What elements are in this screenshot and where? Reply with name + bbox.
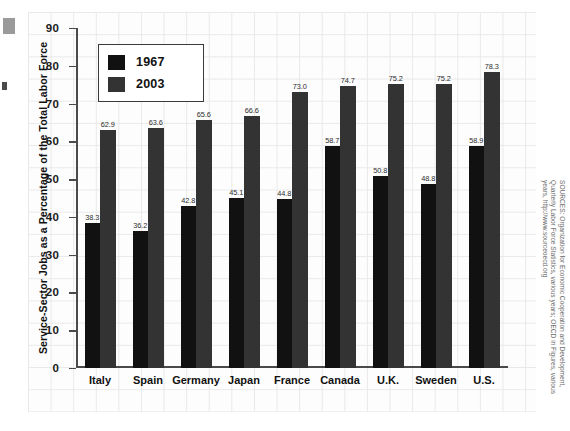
bar-value-label: 63.6	[149, 118, 163, 127]
bar-japan-2003[interactable]: 66.6	[244, 116, 260, 368]
bar-sweden-1967[interactable]: 48.8	[421, 184, 437, 368]
bar-value-label: 62.9	[101, 120, 115, 129]
x-axis-label-japan: Japan	[228, 374, 260, 386]
y-axis-tick-label: 40	[46, 211, 59, 223]
y-axis-tick: 90	[69, 28, 76, 29]
bar-group: 45.166.6	[229, 28, 260, 368]
y-axis-tick-label: 90	[46, 22, 59, 34]
legend-swatch-icon-2003	[108, 77, 125, 92]
chart-legend: 1967 2003	[98, 44, 204, 102]
bar-value-label: 66.6	[245, 106, 259, 115]
bar-canada-1967[interactable]: 58.7	[325, 146, 341, 368]
bar-us-1967[interactable]: 58.9	[469, 146, 485, 369]
source-note: SOURCES: Organization for Economic Coope…	[540, 180, 566, 410]
bar-value-label: 45.1	[229, 188, 243, 197]
legend-swatch-icon-1967	[108, 55, 125, 70]
y-axis-tick-label: 70	[46, 98, 59, 110]
legend-label-1967: 1967	[136, 55, 165, 69]
bar-uk-2003[interactable]: 75.2	[388, 84, 404, 368]
y-axis-tick: 80	[69, 66, 76, 67]
bar-group: 58.774.7	[325, 28, 356, 368]
bar-germany-2003[interactable]: 65.6	[196, 120, 212, 368]
legend-item-1967: 1967	[108, 51, 203, 73]
bar-sweden-2003[interactable]: 75.2	[436, 84, 452, 368]
bar-value-label: 36.2	[133, 221, 147, 230]
bar-value-label: 65.6	[197, 110, 211, 119]
bar-value-label: 50.8	[373, 166, 387, 175]
bar-spain-2003[interactable]: 63.6	[148, 128, 164, 368]
legend-item-2003: 2003	[108, 73, 203, 95]
bar-value-label: 75.2	[389, 74, 403, 83]
bar-group: 50.875.2	[373, 28, 404, 368]
bar-canada-2003[interactable]: 74.7	[340, 86, 356, 368]
page-edge-mark-top	[3, 18, 15, 34]
bar-group: 48.875.2	[421, 28, 452, 368]
bar-group: 44.873.0	[277, 28, 308, 368]
bar-value-label: 48.8	[421, 174, 435, 183]
x-axis-label-canada: Canada	[320, 374, 360, 386]
bar-group: 58.978.3	[469, 28, 500, 368]
y-axis-tick-label: 20	[46, 286, 59, 298]
bar-us-2003[interactable]: 78.3	[484, 72, 500, 368]
source-note-text: SOURCES: Organization for Economic Coope…	[540, 180, 566, 410]
x-axis-label-sweden: Sweden	[415, 374, 457, 386]
bar-france-2003[interactable]: 73.0	[292, 92, 308, 368]
x-axis-label-italy: Italy	[89, 374, 111, 386]
chart-figure: Service-Sector Jobs as a Percentage of t…	[0, 0, 570, 431]
y-axis-tick-label: 60	[46, 135, 59, 147]
y-axis-title-text: Service-Sector Jobs as a Percentage of t…	[37, 42, 49, 354]
y-axis-tick: 70	[69, 104, 76, 105]
bar-value-label: 38.3	[85, 213, 99, 222]
bar-value-label: 42.8	[181, 196, 195, 205]
y-axis-title: Service-Sector Jobs as a Percentage of t…	[34, 28, 52, 368]
bar-value-label: 73.0	[293, 82, 307, 91]
bar-value-label: 58.7	[325, 136, 339, 145]
page-edge-mark-middle	[2, 82, 7, 90]
x-axis-label-us: U.S.	[473, 374, 494, 386]
x-axis-label-france: France	[274, 374, 310, 386]
y-axis-tick: 10	[69, 330, 76, 331]
bar-value-label: 78.3	[485, 62, 499, 71]
bar-value-label: 75.2	[437, 74, 451, 83]
bar-spain-1967[interactable]: 36.2	[133, 231, 149, 368]
bar-germany-1967[interactable]: 42.8	[181, 206, 197, 368]
y-axis-tick: 60	[69, 141, 76, 142]
y-axis-tick-label: 10	[46, 324, 59, 336]
x-axis-label-germany: Germany	[172, 374, 220, 386]
bar-italy-1967[interactable]: 38.3	[85, 223, 101, 368]
y-axis-tick-label: 80	[46, 60, 59, 72]
y-axis-tick: 30	[69, 255, 76, 256]
bar-value-label: 44.8	[277, 189, 291, 198]
x-axis-label-uk: U.K.	[377, 374, 399, 386]
x-axis-label-spain: Spain	[133, 374, 163, 386]
y-axis-tick: 20	[69, 292, 76, 293]
y-axis-tick-label: 30	[46, 249, 59, 261]
bar-italy-2003[interactable]: 62.9	[100, 130, 116, 368]
bar-value-label: 58.9	[469, 136, 483, 145]
legend-label-2003: 2003	[136, 77, 165, 91]
bar-france-1967[interactable]: 44.8	[277, 199, 293, 368]
bar-value-label: 74.7	[341, 76, 355, 85]
bar-uk-1967[interactable]: 50.8	[373, 176, 389, 368]
y-axis-tick-label: 50	[46, 173, 59, 185]
x-axis-labels: ItalySpainGermanyJapanFranceCanadaU.K.Sw…	[76, 374, 508, 392]
bar-japan-1967[interactable]: 45.1	[229, 198, 245, 368]
y-axis-tick: 0	[69, 368, 76, 369]
y-axis-tick-label: 0	[52, 362, 59, 374]
y-axis-tick: 40	[69, 217, 76, 218]
y-axis-tick: 50	[69, 179, 76, 180]
